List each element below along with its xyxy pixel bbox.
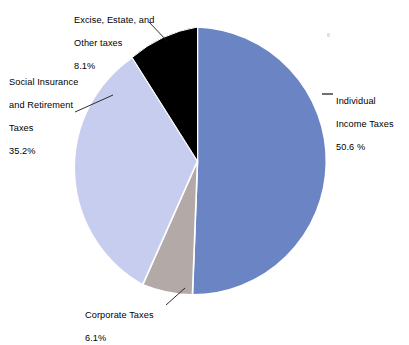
- slice-label-individual-value: 50.6 %: [336, 142, 394, 153]
- slice-label-corporate-value: 6.1%: [85, 333, 154, 344]
- slice-label-individual-line1: Individual: [336, 96, 394, 107]
- slice-label-social-line3: Taxes: [9, 123, 78, 134]
- slice-label-corporate-line1: Corporate Taxes: [85, 310, 154, 321]
- pie-slice-individual-income-taxes: [192, 27, 326, 295]
- slice-label-excise-value: 8.1%: [74, 61, 154, 72]
- slice-label-social-value: 35.2%: [9, 146, 78, 157]
- slice-label-social-line1: Social Insurance: [9, 77, 78, 88]
- slice-label-social-insurance-retirement-taxes: Social Insurance and Retirement Taxes 35…: [9, 66, 78, 169]
- slice-label-excise-line1: Excise, Estate, and: [74, 15, 154, 26]
- slice-label-corporate-taxes: Corporate Taxes 6.1%: [85, 299, 154, 345]
- slice-label-social-line2: and Retirement: [9, 100, 78, 111]
- slice-label-individual-line2: Income Taxes: [336, 119, 394, 130]
- scan-artifact-speck: [327, 33, 330, 37]
- slice-label-excise-estate-other-taxes: Excise, Estate, and Other taxes 8.1%: [74, 4, 154, 84]
- slice-label-individual-income-taxes: Individual Income Taxes 50.6 %: [336, 85, 394, 165]
- slice-label-excise-line2: Other taxes: [74, 38, 154, 49]
